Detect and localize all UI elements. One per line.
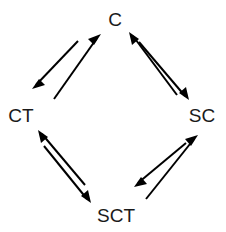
edge-c-to-sc (139, 42, 189, 100)
diagram-canvas: C CT SC SCT (0, 0, 226, 232)
node-label-c: C (108, 10, 122, 29)
node-label-sc: SC (189, 106, 215, 125)
edge-ct-to-c-arrowhead (88, 34, 101, 45)
edge-sct-to-ct-line (42, 134, 85, 185)
edge-sc-to-sct-line (138, 143, 186, 183)
edge-sct-to-sc-arrowhead (185, 135, 198, 146)
edge-c-to-ct-arrowhead (32, 79, 45, 89)
edge-ct-to-c-line (54, 38, 97, 99)
edge-sc-to-c (129, 32, 177, 95)
edge-c-to-ct (32, 41, 78, 89)
edge-sc-to-c-line (133, 36, 177, 95)
edge-c-to-sc-line (139, 42, 185, 96)
edge-c-to-ct-line (36, 41, 78, 85)
edge-sct-to-sc (146, 135, 198, 199)
node-label-sct: SCT (97, 206, 135, 225)
edge-sct-to-ct (38, 130, 85, 185)
edge-sct-to-ct-arrowhead (38, 130, 48, 143)
edge-ct-to-sct (44, 146, 91, 203)
edge-ct-to-sct-line (44, 146, 87, 199)
edge-ct-to-c (54, 34, 101, 99)
edge-c-to-sc-arrowhead (179, 87, 189, 100)
edge-sct-to-sc-line (146, 139, 194, 199)
node-label-ct: CT (8, 106, 33, 125)
edge-sc-to-sct-arrowhead (134, 177, 147, 187)
